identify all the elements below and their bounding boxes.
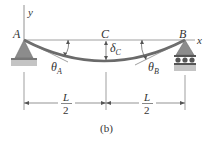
point-b-label: B bbox=[179, 27, 187, 41]
dim-right-denominator: 2 bbox=[144, 104, 150, 116]
angle-arrow-b-top bbox=[140, 40, 144, 44]
point-c-label: C bbox=[101, 27, 110, 41]
theta-b-label: θB bbox=[148, 60, 159, 76]
x-axis-label: x bbox=[196, 34, 202, 46]
point-a-label: A bbox=[12, 27, 21, 41]
angle-arrow-a-top bbox=[66, 40, 70, 44]
deflection-arrow-bottom bbox=[104, 56, 108, 60]
deflection-label: δC bbox=[110, 41, 122, 57]
dim-right-numerator: L bbox=[143, 91, 150, 103]
dim-arrow-left-end bbox=[101, 101, 106, 105]
beam-deflection-diagram: y x A C B δC θA θB bbox=[0, 0, 221, 143]
deflection-arrow-top bbox=[104, 41, 108, 45]
dim-arrow-right-start bbox=[106, 101, 111, 105]
y-axis-label: y bbox=[27, 6, 33, 18]
dim-left-numerator: L bbox=[62, 91, 69, 103]
deflected-beam-curve bbox=[24, 40, 185, 61]
theta-a-label: θA bbox=[51, 60, 62, 76]
figure-caption: (b) bbox=[100, 122, 113, 135]
dim-arrow-right-end bbox=[180, 101, 185, 105]
dim-left-denominator: 2 bbox=[63, 104, 69, 116]
dim-arrow-left-start bbox=[24, 101, 29, 105]
